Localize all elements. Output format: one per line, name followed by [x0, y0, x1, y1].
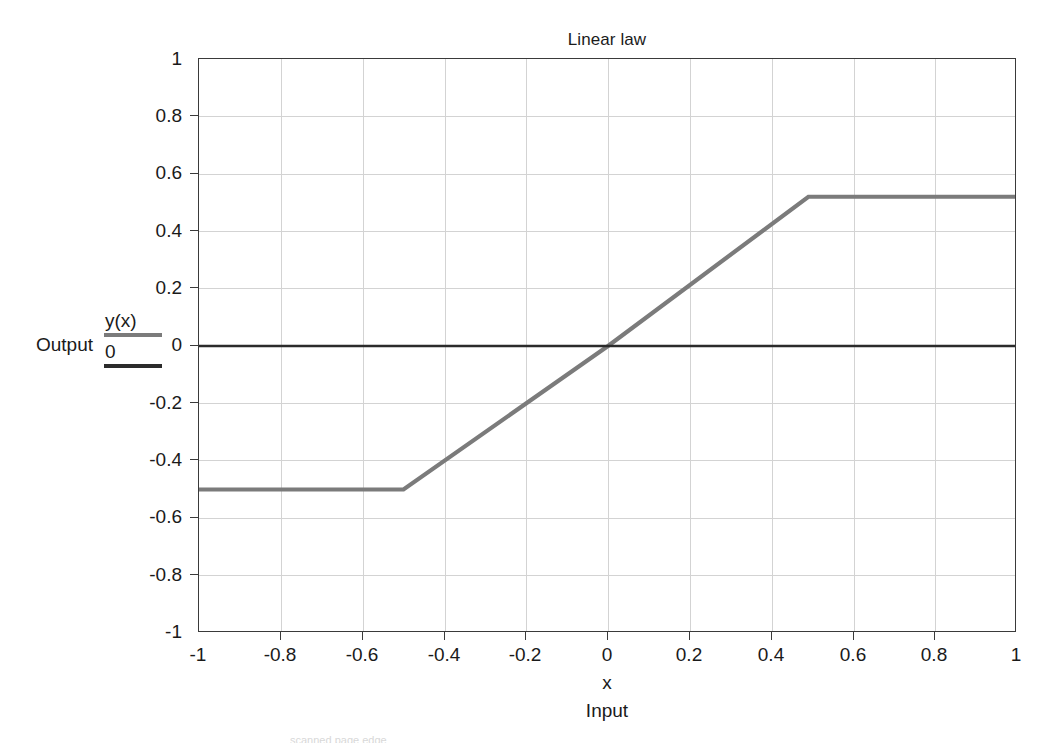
x-tick-label: 1: [956, 644, 1045, 666]
x-tick-mark: [607, 632, 608, 640]
legend-swatch-yx: [104, 333, 162, 337]
x-tick-mark: [689, 632, 690, 640]
y-tick-mark: [190, 230, 198, 231]
y-tick-label: -0.4: [62, 449, 182, 471]
y-tick-label: -0.8: [62, 564, 182, 586]
data-layer: [199, 59, 1015, 631]
legend: y(x) 0: [104, 310, 166, 372]
legend-item-zero: 0: [104, 341, 166, 368]
y-tick-mark: [190, 459, 198, 460]
x-tick-mark: [280, 632, 281, 640]
legend-label-zero: 0: [104, 341, 166, 363]
x-tick-mark: [853, 632, 854, 640]
x-axis-name-input: Input: [198, 700, 1016, 722]
scan-artifact: scanned page edge: [290, 734, 760, 743]
plot-inner: [199, 59, 1015, 631]
y-tick-mark: [190, 345, 198, 346]
y-tick-label: 1: [62, 48, 182, 70]
x-tick-mark: [525, 632, 526, 640]
y-tick-mark: [190, 402, 198, 403]
legend-swatch-zero: [104, 364, 162, 368]
x-tick-mark: [934, 632, 935, 640]
y-tick-label: 0.8: [62, 105, 182, 127]
x-tick-mark: [362, 632, 363, 640]
y-tick-label: 0.6: [62, 162, 182, 184]
legend-item-yx: y(x): [104, 310, 166, 337]
y-tick-label: 0.2: [62, 277, 182, 299]
y-tick-mark: [190, 115, 198, 116]
y-tick-label: -0.2: [62, 392, 182, 414]
series-line-yx: [199, 197, 1015, 490]
y-tick-mark: [190, 173, 198, 174]
y-tick-mark: [190, 574, 198, 575]
legend-label-yx: y(x): [104, 310, 166, 332]
y-tick-label: -1: [62, 621, 182, 643]
y-tick-label: -0.6: [62, 506, 182, 528]
x-axis-symbol: x: [198, 672, 1016, 694]
y-tick-label: 0.4: [62, 220, 182, 242]
plot-area: [198, 58, 1016, 632]
chart-title: Linear law: [198, 30, 1016, 50]
y-axis-name-output: Output: [36, 334, 93, 356]
x-tick-mark: [771, 632, 772, 640]
x-tick-mark: [444, 632, 445, 640]
y-tick-mark: [190, 287, 198, 288]
y-tick-mark: [190, 517, 198, 518]
chart-figure: Linear law 1 0.8 0.6 0.4 0.2 0 -0.2 -0.4…: [0, 0, 1045, 747]
